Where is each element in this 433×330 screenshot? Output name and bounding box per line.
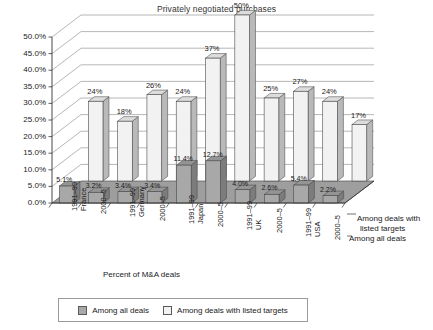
legend-label-listed-targets: Among deals with listed targets bbox=[177, 306, 288, 315]
bar-value-label: 4.0% bbox=[232, 180, 248, 188]
depth-axis-front-label: Among all deals bbox=[349, 234, 406, 244]
bar-value-label: 11.4% bbox=[174, 155, 193, 163]
depth-axis-back-label-line1: Among deals with bbox=[357, 214, 420, 224]
bar-value-label: 12.7% bbox=[203, 151, 223, 159]
x-axis-category-label: 2000–5 bbox=[100, 189, 109, 214]
category-country: USA bbox=[314, 207, 323, 236]
chart-container: Privately negotiated purchases 0.0%5.0%1… bbox=[0, 0, 433, 330]
bar-value-label: 24% bbox=[322, 88, 337, 96]
legend-item-listed-targets: Among deals with listed targets bbox=[163, 306, 288, 315]
bar-value-label: 18% bbox=[117, 108, 132, 116]
y-axis-tick-label: 20.0% bbox=[0, 132, 46, 141]
category-period: 2000–5 bbox=[217, 202, 226, 227]
y-axis-tick-label: 25.0% bbox=[0, 115, 46, 124]
chart-legend: Among all deals Among deals with listed … bbox=[58, 298, 308, 322]
bar-value-label: 27% bbox=[292, 78, 307, 86]
bar-value-label: 17% bbox=[351, 112, 366, 120]
bar-value-label: 3.4% bbox=[144, 182, 160, 190]
x-axis-category-label: 2000–5 bbox=[334, 215, 343, 240]
x-axis-category-label: 2000–5 bbox=[159, 196, 168, 221]
bar-value-label: 50% bbox=[234, 2, 249, 10]
y-axis-tick-label: 15.0% bbox=[0, 148, 46, 157]
y-axis-tick-label: 30.0% bbox=[0, 98, 46, 107]
x-axis-category-label: 2000–5 bbox=[276, 208, 285, 233]
x-axis-category-label: 1991–99France bbox=[71, 182, 88, 211]
x-axis-category-label: 1991–99Japan bbox=[188, 195, 205, 224]
category-country: UK bbox=[255, 201, 264, 230]
bar-value-label: 37% bbox=[205, 45, 220, 53]
category-period: 2000–5 bbox=[334, 215, 343, 240]
category-period: 1991–99 bbox=[71, 182, 80, 211]
y-axis-tick-label: 40.0% bbox=[0, 65, 46, 74]
x-axis-category-label: 1991–99UK bbox=[246, 201, 263, 230]
x-axis-category-label: 2000–5 bbox=[217, 202, 226, 227]
legend-swatch-icon-listed-targets bbox=[163, 306, 172, 315]
bar-value-label: 2.6% bbox=[261, 184, 277, 192]
x-axis-category-label: 1991–99Germany bbox=[129, 187, 146, 218]
y-axis-tick-label: 0.0% bbox=[0, 198, 46, 207]
x-axis-title: Percent of M&A deals bbox=[103, 270, 180, 279]
category-country: Germany bbox=[138, 187, 147, 218]
category-country: France bbox=[79, 182, 88, 211]
legend-swatch-icon-all-deals bbox=[78, 306, 87, 315]
legend-item-all-deals: Among all deals bbox=[78, 306, 149, 315]
y-axis-tick-label: 45.0% bbox=[0, 49, 46, 58]
y-axis-tick-label: 10.0% bbox=[0, 165, 46, 174]
category-period: 2000–5 bbox=[159, 196, 168, 221]
bar-value-label: 5.4% bbox=[291, 175, 307, 183]
bar-value-label: 26% bbox=[146, 82, 161, 90]
category-period: 2000–5 bbox=[100, 189, 109, 214]
legend-label-all-deals: Among all deals bbox=[92, 306, 149, 315]
bar-value-label: 24% bbox=[87, 88, 102, 96]
y-axis-tick-label: 5.0% bbox=[0, 181, 46, 190]
x-axis-category-label: 1991–99USA bbox=[305, 207, 322, 236]
bar-value-label: 24% bbox=[175, 88, 190, 96]
category-period: 2000–5 bbox=[276, 208, 285, 233]
y-axis-tick-label: 50.0% bbox=[0, 32, 46, 41]
bar-value-label: 2.2% bbox=[320, 186, 336, 194]
y-axis-tick-label: 35.0% bbox=[0, 82, 46, 91]
depth-axis-back-label-line2: listed targets bbox=[360, 224, 405, 234]
category-country: Japan bbox=[196, 195, 205, 224]
bar-value-label: 25% bbox=[263, 85, 278, 93]
